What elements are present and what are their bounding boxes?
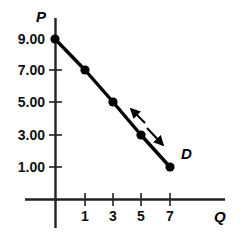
x-tick-label-5: 5 <box>137 208 145 224</box>
data-point-marker <box>165 162 174 171</box>
y-tick-label-1: 1.00 <box>18 159 45 175</box>
arrow-up-left-icon <box>131 109 145 123</box>
demand-curve-chart: 9.00 7.00 5.00 3.00 1.00 1 3 5 7 P Q D <box>0 0 245 241</box>
data-point-marker <box>136 130 145 139</box>
data-point-marker <box>50 34 59 43</box>
y-tick-label-3: 3.00 <box>18 127 45 143</box>
data-point-marker <box>80 65 89 74</box>
y-tick-label-5: 5.00 <box>18 94 45 110</box>
demand-curve-label: D <box>181 145 192 162</box>
x-tick-label-7: 7 <box>166 208 174 224</box>
x-tick-label-1: 1 <box>81 208 89 224</box>
chart-canvas: 9.00 7.00 5.00 3.00 1.00 1 3 5 7 P Q D <box>0 0 245 241</box>
y-tick-label-7: 7.00 <box>18 62 45 78</box>
y-tick-label-9: 9.00 <box>18 31 45 47</box>
x-tick-label-3: 3 <box>109 208 117 224</box>
x-axis-label: Q <box>214 208 226 225</box>
data-point-marker <box>108 97 117 106</box>
y-axis-label: P <box>36 8 47 25</box>
